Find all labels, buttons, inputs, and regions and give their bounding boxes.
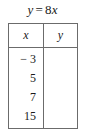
cell-x-value: 15 <box>9 107 44 129</box>
cell-y-value[interactable] <box>44 48 78 70</box>
table-body: − 3 5 7 15 <box>9 48 78 129</box>
cell-y-value[interactable] <box>44 88 78 107</box>
column-header-y: y <box>44 24 78 48</box>
equation-right-variable: x <box>52 2 58 17</box>
value-table: x y − 3 5 7 15 <box>8 23 78 129</box>
table-header-row: x y <box>9 24 78 48</box>
equation-coefficient: 8 <box>45 2 52 17</box>
cell-y-value[interactable] <box>44 69 78 88</box>
cell-y-value[interactable] <box>44 107 78 129</box>
table-row: 5 <box>9 69 78 88</box>
table-row: 7 <box>9 88 78 107</box>
equation-table-figure: y=8x x y − 3 5 7 <box>0 0 85 135</box>
equation-operator: = <box>33 2 45 17</box>
column-header-x: x <box>9 24 44 48</box>
table-row: − 3 <box>9 48 78 70</box>
cell-x-value: 7 <box>9 88 44 107</box>
cell-x-value: 5 <box>9 69 44 88</box>
table-row: 15 <box>9 107 78 129</box>
equation-title: y=8x <box>0 2 85 18</box>
table-header: x y <box>9 24 78 48</box>
cell-x-value: − 3 <box>9 48 44 70</box>
